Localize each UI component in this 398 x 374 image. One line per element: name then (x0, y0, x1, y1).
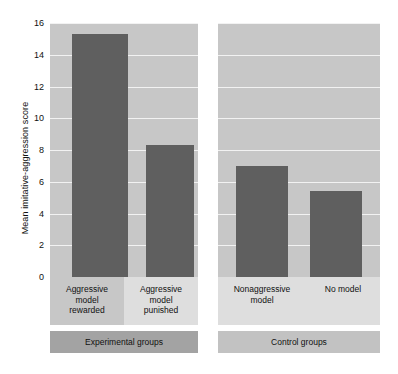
y-tick-16: 16 (24, 18, 44, 28)
y-tick-6: 6 (24, 177, 44, 187)
gridline-12 (218, 87, 380, 88)
category-line: Aggressive (124, 284, 198, 295)
category-line: rewarded (50, 305, 124, 316)
y-tick-2: 2 (24, 240, 44, 250)
y-tick-4: 4 (24, 209, 44, 219)
y-tick-10: 10 (24, 113, 44, 123)
category-labels-experimental: Aggressive model rewarded Aggressive mod… (50, 277, 198, 325)
category-line: model (218, 295, 306, 306)
gridline-10 (218, 118, 380, 119)
gridline-14 (218, 55, 380, 56)
category-labels-control: Nonaggressive model No model (218, 277, 380, 325)
group-band-experimental: Experimental groups (50, 331, 198, 353)
plot-panel-experimental (50, 23, 198, 277)
bar-nonaggressive-model (236, 166, 288, 277)
category-line: No model (306, 284, 380, 295)
category-label-aggressive-model-rewarded: Aggressive model rewarded (50, 277, 124, 325)
y-tick-0: 0 (24, 272, 44, 282)
category-line: punished (124, 305, 198, 316)
category-label-no-model: No model (306, 277, 380, 325)
category-line: Nonaggressive (218, 284, 306, 295)
category-label-aggressive-model-punished: Aggressive model punished (124, 277, 198, 325)
bar-chart-figure: Mean imitative-aggression score 16 14 12… (0, 0, 398, 374)
bar-aggressive-model-punished (146, 145, 194, 277)
y-tick-12: 12 (24, 82, 44, 92)
group-band-control: Control groups (218, 331, 380, 353)
gridline-16 (50, 23, 198, 24)
y-tick-14: 14 (24, 50, 44, 60)
y-tick-8: 8 (24, 145, 44, 155)
bar-aggressive-model-rewarded (72, 34, 128, 277)
y-axis-label: Mean imitative-aggression score (14, 41, 36, 295)
category-label-nonaggressive-model: Nonaggressive model (218, 277, 306, 325)
category-line: model (50, 295, 124, 306)
gridline-8 (218, 150, 380, 151)
gridline-16 (218, 23, 380, 24)
category-line: Aggressive (50, 284, 124, 295)
category-line: model (124, 295, 198, 306)
plot-panel-control (218, 23, 380, 277)
bar-no-model (310, 191, 362, 277)
